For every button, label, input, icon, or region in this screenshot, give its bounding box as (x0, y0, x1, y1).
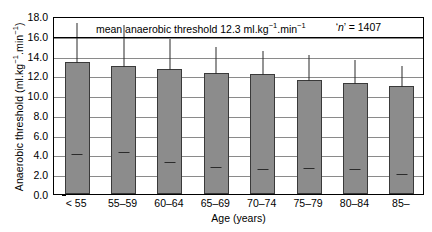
error-bar-cap (396, 174, 407, 175)
error-bar-line (216, 47, 217, 74)
bar (297, 80, 322, 194)
bar (389, 86, 414, 194)
x-axis-ticks: < 5555–5960–6465–6970–7475–7980–8485– (53, 197, 424, 213)
bar-series (54, 18, 423, 194)
y-tick-label: 6.0 (33, 130, 48, 142)
x-tick-label: 60–64 (154, 197, 183, 209)
error-bar-line (355, 60, 356, 85)
error-bar-cap (211, 167, 222, 168)
bar-slot (240, 18, 286, 194)
error-bar-line (262, 51, 263, 76)
x-axis-title: Age (years) (53, 212, 424, 224)
y-axis-ticks: 18.016.014.012.010.08.06.04.02.00.0 (14, 17, 48, 195)
x-tick-label: 85– (392, 197, 410, 209)
bar (250, 74, 275, 194)
chart-title-main: mean anaerobic threshold 12.3 ml.kg (96, 22, 269, 34)
error-bar-cap (72, 154, 83, 155)
x-tick-label: 65–69 (201, 197, 230, 209)
bar (204, 73, 229, 194)
y-tick-label: 10.0 (28, 90, 48, 102)
anaerobic-threshold-bar-chart: Anaerobic threshold (ml.kg−1.min−1) 18.0… (0, 0, 432, 232)
n-value-text: ’ = 1407 (344, 21, 381, 33)
y-tick-label: 0.0 (33, 189, 48, 201)
x-tick-label: 70–74 (247, 197, 276, 209)
chart-title: mean anaerobic threshold 12.3 ml.kg−1.mi… (96, 21, 306, 35)
y-tick-label: 16.0 (28, 31, 48, 43)
error-bar-line (169, 39, 170, 71)
bar (157, 69, 182, 194)
y-tick-label: 2.0 (33, 169, 48, 181)
bar-slot (54, 18, 100, 194)
bar-slot (332, 18, 378, 194)
x-tick-label: 55–59 (108, 197, 137, 209)
chart-header-band: mean anaerobic threshold 12.3 ml.kg−1.mi… (54, 18, 423, 38)
bar-slot (193, 18, 239, 194)
y-tick-label: 14.0 (28, 51, 48, 63)
x-tick-label: 80–84 (340, 197, 369, 209)
error-bar-cap (118, 152, 129, 153)
bar-slot (379, 18, 425, 194)
y-tick-mark (62, 195, 66, 196)
y-tick-label: 12.0 (28, 70, 48, 82)
error-bar-line (309, 55, 310, 81)
error-bar-cap (350, 169, 361, 170)
y-tick-label: 8.0 (33, 110, 48, 122)
x-tick-label: < 55 (66, 197, 87, 209)
bar (343, 83, 368, 194)
bar-slot (147, 18, 193, 194)
x-tick-label: 75–79 (293, 197, 322, 209)
chart-title-sup1: −1 (269, 21, 278, 30)
chart-title-sup2: −1 (297, 21, 306, 30)
error-bar-line (401, 66, 402, 86)
bar-slot (286, 18, 332, 194)
chart-title-mid: .min (277, 22, 297, 34)
y-tick-label: 4.0 (33, 149, 48, 161)
error-bar-cap (257, 169, 268, 170)
sample-size-annotation: ‘n’ = 1407 (336, 21, 381, 33)
bar (111, 66, 136, 194)
y-tick-label: 18.0 (28, 11, 48, 23)
bar (65, 62, 90, 195)
error-bar-cap (304, 168, 315, 169)
error-bar-cap (164, 162, 175, 163)
plot-area: mean anaerobic threshold 12.3 ml.kg−1.mi… (53, 17, 424, 195)
bar-slot (100, 18, 146, 194)
